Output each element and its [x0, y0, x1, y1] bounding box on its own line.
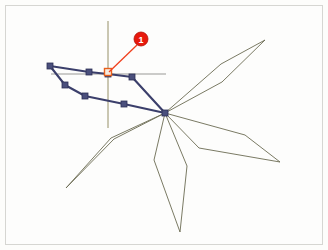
callout-leader-line	[109, 45, 137, 72]
data-point-marker[interactable]	[121, 101, 127, 107]
star-outline-group	[66, 40, 280, 232]
figure-viewport: 1	[0, 0, 328, 250]
star-outline-path	[66, 40, 280, 232]
data-point-marker[interactable]	[82, 93, 88, 99]
data-point-marker[interactable]	[62, 82, 68, 88]
data-point-marker[interactable]	[47, 63, 53, 69]
callout-badge-label: 1	[138, 35, 143, 45]
data-point-marker[interactable]	[86, 69, 92, 75]
highlighted-vertex-marker[interactable]	[105, 69, 112, 76]
diagram-canvas[interactable]: 1	[0, 0, 328, 250]
callout-annotation-group[interactable]: 1	[105, 32, 149, 76]
data-point-marker[interactable]	[162, 110, 168, 116]
data-point-marker[interactable]	[129, 74, 135, 80]
